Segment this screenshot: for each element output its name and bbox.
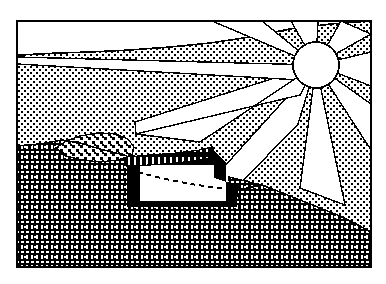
- illustration-canvas: Passive solar earth-sheltered structure …: [0, 0, 386, 284]
- cross-section-illustration: [0, 0, 386, 284]
- sun-disc: [293, 42, 339, 88]
